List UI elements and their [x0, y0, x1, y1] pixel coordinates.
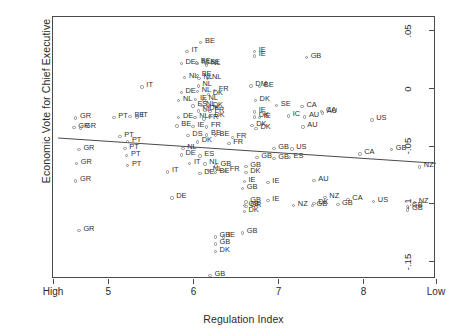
y-tick-mark: [429, 146, 434, 147]
y-tick-label: -.15: [390, 244, 426, 280]
y-tick-mark: [429, 88, 434, 89]
x-tick-mark: [278, 279, 279, 284]
x-tick-mark: [53, 279, 54, 284]
x-tick-mark: [436, 279, 437, 284]
x-tick-label: Low: [412, 286, 451, 297]
x-tick-label: High: [29, 286, 77, 297]
y-tick-mark: [429, 261, 434, 262]
x-tick-label: 5: [84, 286, 132, 297]
y-tick-label: -.1: [390, 186, 426, 222]
x-tick-label: 8: [340, 286, 388, 297]
regression-line: [58, 138, 436, 164]
x-tick-mark: [193, 279, 194, 284]
y-tick-mark: [429, 30, 434, 31]
x-axis-title: Regulation Index: [52, 313, 435, 325]
y-tick-label: .05: [390, 13, 426, 49]
y-axis-title: Economic Vote for Chief Executive: [40, 0, 52, 211]
x-tick-label: 7: [255, 286, 303, 297]
regression-line-layer: [53, 17, 436, 279]
x-tick-label: 6: [169, 286, 217, 297]
y-tick-mark: [429, 203, 434, 204]
y-tick-label: 0: [390, 71, 426, 107]
plot-area: BEITIEIEGBDEBENLBENLNLBENLNLITNLDMBEDENL…: [52, 16, 435, 278]
y-tick-label: -.05: [390, 128, 426, 164]
scatter-plot-figure: BEITIEIEGBDEBENLBENLNLBENLNLITNLDMBEDENL…: [0, 0, 451, 336]
x-tick-mark: [108, 279, 109, 284]
x-tick-mark: [363, 279, 364, 284]
